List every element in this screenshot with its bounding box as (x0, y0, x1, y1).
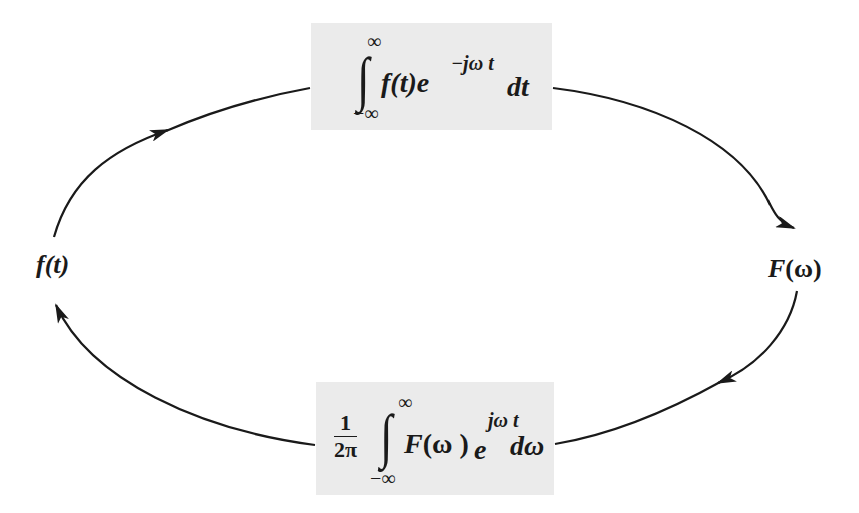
arc-right-top-head (768, 200, 794, 228)
integrand: F(ω ) (404, 428, 469, 460)
node-f-arg: (t) (45, 250, 70, 279)
arc-left-bottom (56, 305, 315, 445)
integrand-arg: (ω ) (423, 428, 469, 459)
coef-denominator: 2π (334, 437, 357, 462)
node-F-arg: (ω) (785, 254, 821, 283)
lower-limit: −∞ (353, 103, 379, 123)
exp-base: e (474, 434, 486, 466)
inverse-transform-box: 1 2π ∞ ∫ −∞ F(ω ) e jω t dω (316, 382, 554, 495)
integrand-arg: (t) (390, 67, 416, 98)
arc-right-top (553, 88, 770, 205)
node-time-function: f(t) (36, 252, 69, 278)
node-F-symbol: F (768, 254, 785, 283)
lower-limit: −∞ (370, 468, 396, 488)
upper-limit: ∞ (367, 31, 381, 51)
forward-transform-box: ∞ ∫ −∞ f(t)e −jω t dt (311, 23, 552, 130)
arc-left-top (54, 130, 168, 237)
differential: dt (507, 71, 529, 103)
integrand: f(t)e (381, 67, 429, 99)
exponent: jω t (488, 410, 519, 430)
integrand-fn: F (404, 428, 423, 459)
arc-right-bottom (718, 291, 797, 383)
arc-right-bottom-tail (555, 381, 722, 444)
node-f-symbol: f (36, 250, 45, 279)
integrand-fn: f (381, 67, 390, 98)
exp-base: e (417, 67, 429, 98)
differential: dω (510, 430, 544, 462)
upper-limit: ∞ (398, 392, 412, 412)
coef-numerator: 1 (340, 410, 351, 435)
exponent: −jω t (451, 53, 494, 73)
integral-sign: ∫ (380, 406, 392, 466)
arc-left-top-tail (166, 88, 310, 131)
node-frequency-function: F(ω) (768, 256, 822, 282)
coefficient-fraction: 1 2π (334, 412, 357, 461)
integral-sign: ∫ (357, 49, 369, 109)
